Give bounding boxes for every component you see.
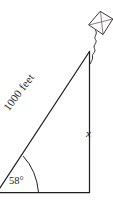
angle-label: 58° [9, 176, 24, 187]
geometry-figure: 1000 feet 58° x [0, 0, 113, 214]
kite-tail-string [91, 31, 97, 64]
opposite-side-label: x [86, 128, 91, 139]
kite-brace-vertical-icon [101, 12, 104, 35]
angle-arc [24, 157, 39, 193]
triangle-hypotenuse [0, 52, 90, 193]
